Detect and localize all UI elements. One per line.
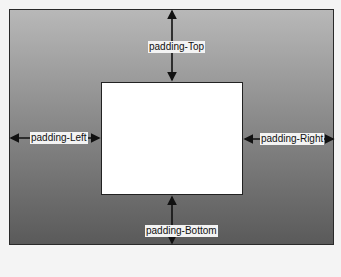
padding-left-label: padding-Left [30, 132, 88, 144]
padding-right-label: padding-Right [260, 133, 324, 145]
padding-top-label: padding-Top [148, 41, 205, 53]
padding-bottom-label: padding-Bottom [145, 225, 218, 237]
